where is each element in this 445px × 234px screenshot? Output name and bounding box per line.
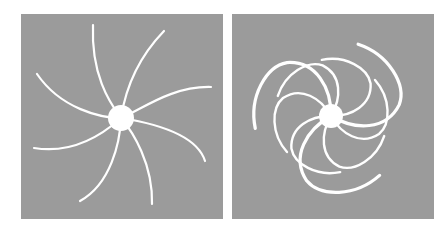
center-disc [108,105,134,131]
tight-spiral-panel [232,14,434,219]
tight-spiral-figure [232,14,434,219]
center-disc [319,104,343,128]
loose-spiral-panel [21,14,223,219]
loose-spiral-figure [21,14,223,219]
